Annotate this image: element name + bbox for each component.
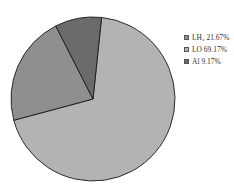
- legend-item-lo: LO 69.17%: [184, 43, 230, 55]
- legend-label-lh2: LH₂ 21.67%: [192, 33, 230, 42]
- legend-item-lh2: LH₂ 21.67%: [184, 31, 230, 43]
- pie-chart: [0, 0, 234, 196]
- legend-label-lo: LO 69.17%: [192, 45, 227, 54]
- legend-item-al: Al 9.17%: [184, 55, 230, 67]
- legend-swatch-lh2: [184, 35, 189, 40]
- legend-swatch-al: [184, 59, 189, 64]
- chart-legend: LH₂ 21.67% LO 69.17% Al 9.17%: [184, 31, 230, 67]
- legend-swatch-lo: [184, 47, 189, 52]
- legend-label-al: Al 9.17%: [192, 57, 221, 66]
